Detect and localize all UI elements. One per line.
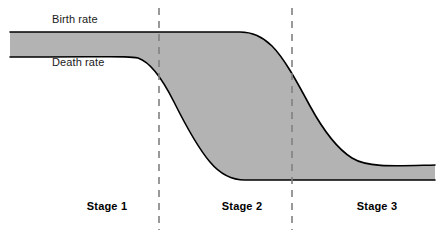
- natural-increase-shaded-area: [10, 32, 435, 180]
- death-rate-label: Death rate: [52, 56, 104, 68]
- demographic-transition-diagram: Birth rate Death rate Stage 1 Stage 2 St…: [0, 0, 447, 237]
- stage-label-2: Stage 2: [197, 200, 287, 212]
- stage-label-3: Stage 3: [332, 200, 422, 212]
- birth-rate-label: Birth rate: [52, 13, 98, 25]
- stage-label-1: Stage 1: [62, 200, 152, 212]
